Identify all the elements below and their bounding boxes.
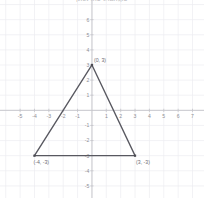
grid-lines <box>0 0 204 198</box>
coordinate-plane: -5-4-3-2-11234567654321-1-2-3-4-5 (0, 3)… <box>0 0 204 198</box>
x-tick-label: 6 <box>177 113 180 119</box>
vertex-annotation: (0, 3) <box>94 57 106 63</box>
x-tick-label: -5 <box>18 113 23 119</box>
x-tick-label: -3 <box>47 113 52 119</box>
y-tick-label: 3 <box>86 62 89 68</box>
y-tick-label: -2 <box>85 137 90 143</box>
graph-figure: plot the triangle -5-4-3-2-1123456765432… <box>0 0 204 198</box>
y-tick-label: 2 <box>86 77 89 83</box>
y-tick-label: -1 <box>85 122 90 128</box>
y-tick-label: 1 <box>86 92 89 98</box>
x-tick-label: 2 <box>119 113 122 119</box>
x-tick-label: 7 <box>191 113 194 119</box>
vertex-annotation: (-4, -3) <box>33 159 49 165</box>
vertex-annotation: (3, -3) <box>136 159 150 165</box>
x-tick-label: 5 <box>162 113 165 119</box>
vertex-point <box>134 155 136 157</box>
y-tick-label: -4 <box>85 168 90 174</box>
axis-lines <box>0 0 204 198</box>
x-tick-label: -1 <box>75 113 80 119</box>
x-tick-label: 1 <box>105 113 108 119</box>
x-tick-label: 4 <box>148 113 151 119</box>
vertex-point <box>91 64 93 66</box>
y-tick-label: -5 <box>85 183 90 189</box>
x-tick-label: -4 <box>32 113 37 119</box>
x-tick-label: 3 <box>134 113 137 119</box>
y-tick-label: 4 <box>86 47 89 53</box>
y-tick-label: 5 <box>86 32 89 38</box>
vertex-point <box>33 155 35 157</box>
y-tick-label: 6 <box>86 17 89 23</box>
